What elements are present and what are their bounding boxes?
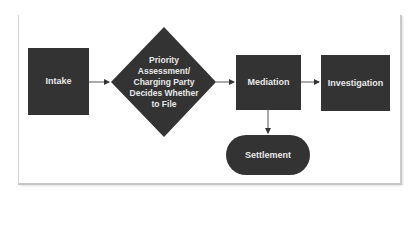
settlement-label: Settlement <box>226 135 310 175</box>
mediation-label: Mediation <box>236 55 301 110</box>
priority-assessment-label: Priority Assessment/ Charging Party Deci… <box>126 50 202 114</box>
investigation-label: Investigation <box>321 55 390 111</box>
intake-label: Intake <box>28 48 89 115</box>
